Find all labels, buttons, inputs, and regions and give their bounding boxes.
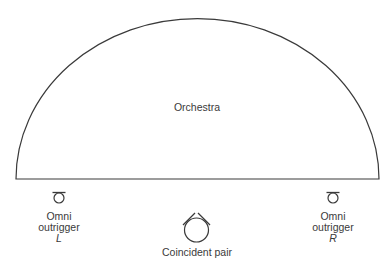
omni-mic-right-icon [327,193,340,204]
omni-right-side: R [293,233,373,244]
coincident-pair-mic-icon [183,213,210,242]
omni-left-side: L [19,233,99,244]
coincident-pair-label: Coincident pair [137,247,257,258]
omni-mic-left-icon [53,193,66,204]
omni-outrigger-left-label: Omni outrigger L [19,211,99,244]
orchestra-stage-outline [16,19,379,179]
omni-outrigger-right-label: Omni outrigger R [293,211,373,244]
orchestra-label: Orchestra [147,102,247,113]
